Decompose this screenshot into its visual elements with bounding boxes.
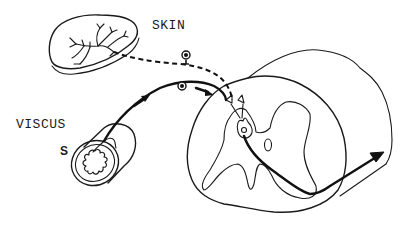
diagram-canvas bbox=[0, 0, 406, 225]
skin-label: SKIN bbox=[152, 18, 185, 33]
skin-patch-outline bbox=[49, 15, 137, 69]
viscus-tube-front bbox=[63, 132, 127, 194]
s-label: S bbox=[60, 144, 69, 158]
drg-neuron-skin bbox=[182, 51, 190, 64]
viscus-mucosa-folds bbox=[83, 150, 107, 175]
synapse-dendrite bbox=[231, 104, 243, 118]
spinal-cord bbox=[188, 50, 393, 213]
viscus-label: VISCUS bbox=[16, 117, 66, 132]
drg-neuron-viscus bbox=[178, 82, 186, 90]
visceral-afferent-pathway bbox=[104, 82, 226, 141]
viscus-tube bbox=[63, 124, 135, 194]
synapse-terminal-2 bbox=[238, 95, 244, 103]
viscus-nerve-branch-2 bbox=[93, 141, 104, 152]
spinal-cord-gray-matter bbox=[202, 102, 316, 199]
central-canal bbox=[265, 139, 272, 151]
referred-pain-diagram: SKIN VISCUS S bbox=[0, 0, 406, 225]
spinal-cord-side-edge bbox=[340, 164, 386, 196]
spinal-cord-back-outline bbox=[248, 50, 392, 164]
skin-nerve-endings bbox=[70, 24, 128, 64]
dorsal-horn-neuron-nucleus bbox=[242, 128, 247, 133]
skin-patch bbox=[49, 15, 139, 74]
direction-arrow-2-head bbox=[205, 89, 214, 96]
viscus-tube-inner-ring bbox=[69, 137, 122, 188]
